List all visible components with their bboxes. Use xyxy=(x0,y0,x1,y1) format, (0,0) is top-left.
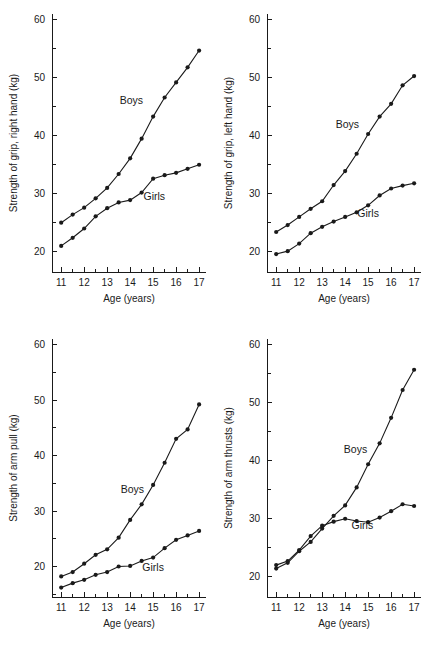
y-tick-label: 50 xyxy=(249,72,261,83)
data-point xyxy=(94,573,98,577)
x-tick-label: 11 xyxy=(271,602,282,613)
x-axis-title: Age (years) xyxy=(103,293,155,304)
x-tick-label: 13 xyxy=(102,602,114,613)
data-point xyxy=(297,241,301,245)
x-tick-label: 17 xyxy=(409,277,421,288)
strength-by-age-figure: 203040506011121314151617Age (years)Stren… xyxy=(0,0,429,650)
data-point xyxy=(186,533,190,537)
series-girls: Girls xyxy=(59,163,201,248)
x-tick-label: 13 xyxy=(102,277,114,288)
data-point xyxy=(174,437,178,441)
data-point xyxy=(59,244,63,248)
x-tick-label: 16 xyxy=(171,602,183,613)
data-point xyxy=(389,509,393,513)
data-point xyxy=(309,231,313,235)
data-point xyxy=(71,570,75,574)
data-point xyxy=(343,215,347,219)
x-tick-label: 13 xyxy=(317,277,329,288)
data-point xyxy=(163,173,167,177)
data-point xyxy=(71,236,75,240)
y-tick-label: 50 xyxy=(34,72,46,83)
data-point xyxy=(59,221,63,225)
data-point xyxy=(140,502,144,506)
x-tick-label: 13 xyxy=(317,602,329,613)
data-point xyxy=(117,536,121,540)
data-point xyxy=(94,196,98,200)
data-point xyxy=(401,388,405,392)
data-point xyxy=(378,515,382,519)
data-point xyxy=(105,570,109,574)
data-point xyxy=(186,65,190,69)
data-point xyxy=(309,534,313,538)
y-tick-label: 20 xyxy=(249,571,261,582)
data-point xyxy=(274,230,278,234)
x-tick-label: 14 xyxy=(340,277,352,288)
data-point xyxy=(197,48,201,52)
x-tick-label: 15 xyxy=(363,277,375,288)
x-tick-label: 14 xyxy=(125,602,137,613)
data-point xyxy=(128,564,132,568)
x-tick-label: 14 xyxy=(340,602,352,613)
data-point xyxy=(332,219,336,223)
data-point xyxy=(94,553,98,557)
data-point xyxy=(82,206,86,210)
axis-lines xyxy=(52,14,206,272)
data-point xyxy=(378,193,382,197)
data-point xyxy=(355,152,359,156)
chart-svg: 203040506011121314151617Age (years)Stren… xyxy=(0,325,214,650)
series-line-boys xyxy=(276,76,414,232)
data-point xyxy=(332,514,336,518)
data-point xyxy=(174,538,178,542)
data-point xyxy=(140,137,144,141)
x-tick-label: 16 xyxy=(386,277,398,288)
data-point xyxy=(117,564,121,568)
series-line-girls xyxy=(61,531,199,588)
data-point xyxy=(286,559,290,563)
y-tick-label: 20 xyxy=(34,246,46,257)
data-point xyxy=(309,207,313,211)
y-tick-label: 30 xyxy=(34,188,46,199)
data-point xyxy=(320,524,324,528)
data-point xyxy=(343,503,347,507)
data-point xyxy=(151,177,155,181)
data-point xyxy=(186,167,190,171)
y-tick-label: 60 xyxy=(249,339,261,350)
data-point xyxy=(355,485,359,489)
data-point xyxy=(412,74,416,78)
axis-lines xyxy=(267,14,421,272)
data-point xyxy=(389,416,393,420)
series-label-girls: Girls xyxy=(352,519,374,531)
series-label-girls: Girls xyxy=(142,561,164,573)
data-point xyxy=(197,529,201,533)
y-tick-label: 30 xyxy=(249,188,261,199)
series-girls: Girls xyxy=(274,502,416,567)
y-tick-label: 30 xyxy=(34,506,46,517)
x-tick-label: 17 xyxy=(194,602,206,613)
x-tick-label: 14 xyxy=(125,277,137,288)
data-point xyxy=(401,502,405,506)
x-tick-label: 12 xyxy=(79,602,91,613)
y-tick-label: 40 xyxy=(249,455,261,466)
data-point xyxy=(343,517,347,521)
chart-svg: 203040506011121314151617Age (years)Stren… xyxy=(0,0,214,325)
x-tick-label: 16 xyxy=(386,602,398,613)
data-point xyxy=(174,80,178,84)
chart-panel-top-right: 203040506011121314151617Age (years)Stren… xyxy=(215,0,429,325)
x-tick-label: 15 xyxy=(148,277,160,288)
data-point xyxy=(59,585,63,589)
y-axis-title: Strength of arm pull (kg) xyxy=(8,414,19,521)
data-point xyxy=(82,562,86,566)
data-point xyxy=(174,171,178,175)
chart-svg: 203040506011121314151617Age (years)Stren… xyxy=(215,325,429,650)
series-label-boys: Boys xyxy=(120,94,143,106)
y-tick-label: 30 xyxy=(249,513,261,524)
y-tick-label: 40 xyxy=(249,130,261,141)
x-tick-label: 11 xyxy=(56,277,67,288)
y-axis-title: Strength of arm thrusts (kg) xyxy=(223,407,234,529)
data-point xyxy=(197,402,201,406)
data-point xyxy=(412,504,416,508)
series-label-girls: Girls xyxy=(143,190,165,202)
x-tick-label: 12 xyxy=(294,277,306,288)
data-point xyxy=(151,115,155,119)
data-point xyxy=(128,156,132,160)
